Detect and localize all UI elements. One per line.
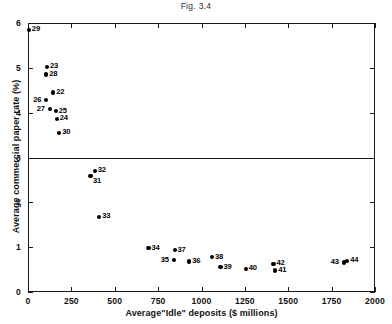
data-point-label: 34: [152, 244, 160, 252]
data-point-label: 29: [32, 25, 40, 33]
data-point-label: 32: [98, 166, 106, 174]
x-axis-tick: [245, 287, 246, 292]
x-axis-tick-top: [245, 23, 246, 28]
data-point-label: 43: [331, 258, 339, 266]
x-axis-tick-label: 2000: [365, 296, 385, 306]
y-axis-tick-label: 2: [0, 197, 21, 207]
x-axis-label: Average"Idle" deposits ($ millions): [28, 308, 375, 318]
x-axis-tick-top: [332, 23, 333, 28]
data-point-label: 40: [249, 264, 257, 272]
x-axis-tick-label: 1000: [192, 296, 212, 306]
x-axis-tick-label: 1500: [278, 296, 298, 306]
data-point: [88, 174, 92, 178]
x-axis-tick-label: 500: [107, 296, 122, 306]
data-point: [271, 262, 275, 266]
data-point: [57, 131, 61, 135]
data-point-label: 41: [278, 266, 286, 274]
data-point: [51, 90, 55, 94]
y-axis-tick: [28, 113, 33, 114]
data-point-label: 31: [93, 177, 101, 185]
data-point: [173, 248, 177, 252]
y-axis-tick-right: [370, 23, 375, 24]
y-axis-tick-right: [370, 68, 375, 69]
data-point: [93, 169, 97, 173]
reference-hline: [28, 158, 375, 159]
data-point-label: 22: [56, 88, 64, 96]
y-axis-tick-label: 0: [0, 287, 21, 297]
y-axis-tick-right: [370, 247, 375, 248]
x-axis-tick-top: [71, 23, 72, 28]
data-point-label: 27: [37, 105, 45, 113]
data-point: [27, 28, 31, 32]
y-axis-tick: [28, 247, 33, 248]
y-axis-tick-label: 1: [0, 242, 21, 252]
data-point-label: 36: [192, 257, 200, 265]
data-point: [244, 267, 248, 271]
x-axis-tick-top: [375, 23, 376, 28]
y-axis-tick-label: 4: [0, 108, 21, 118]
data-point-label: 30: [62, 128, 70, 136]
x-axis-tick-top: [115, 23, 116, 28]
x-axis-tick: [288, 287, 289, 292]
data-point-label: 33: [102, 212, 110, 220]
data-point: [44, 72, 48, 76]
x-axis-tick: [158, 287, 159, 292]
y-axis-tick-right: [370, 158, 375, 159]
data-point-label: 28: [49, 70, 57, 78]
data-point-label: 35: [161, 256, 169, 264]
x-axis-tick-label: 0: [26, 296, 31, 306]
figure-title: Fig. 3.4: [0, 1, 392, 11]
y-axis-tick-label: 3: [0, 153, 21, 163]
data-point: [146, 246, 150, 250]
x-axis-tick-label: 750: [151, 296, 166, 306]
data-point: [48, 107, 52, 111]
x-axis-tick-label: 1750: [322, 296, 342, 306]
figure-root: Fig. 3.4 2923282226272524303231333437353…: [0, 0, 392, 324]
x-axis-tick-label: 1250: [235, 296, 255, 306]
x-axis-tick: [375, 287, 376, 292]
data-point: [187, 259, 191, 263]
data-point: [210, 255, 214, 259]
y-axis-tick: [28, 292, 33, 293]
data-point: [172, 258, 176, 262]
plot-area: 2923282226272524303231333437353638394042…: [28, 23, 375, 292]
data-point: [54, 109, 58, 113]
data-point: [44, 98, 48, 102]
y-axis-tick-label: 6: [0, 18, 21, 28]
data-point-label: 26: [33, 96, 41, 104]
x-axis-tick: [332, 287, 333, 292]
data-point: [273, 268, 277, 272]
y-axis-tick-right: [370, 202, 375, 203]
y-axis-tick: [28, 68, 33, 69]
x-axis-tick-top: [288, 23, 289, 28]
data-point: [345, 259, 349, 263]
y-axis-tick-right: [370, 113, 375, 114]
data-point-label: 37: [178, 246, 186, 254]
x-axis-tick-top: [158, 23, 159, 28]
y-axis-tick: [28, 202, 33, 203]
data-point: [97, 215, 101, 219]
data-point-label: 38: [215, 253, 223, 261]
data-point-label: 44: [350, 256, 358, 264]
x-axis-tick: [71, 287, 72, 292]
y-axis-tick-label: 5: [0, 63, 21, 73]
y-axis-tick-right: [370, 292, 375, 293]
data-point: [218, 265, 222, 269]
y-axis-tick: [28, 158, 33, 159]
x-axis-tick-label: 250: [64, 296, 79, 306]
x-axis-tick: [202, 287, 203, 292]
data-point-label: 24: [60, 114, 68, 122]
x-axis-tick-top: [202, 23, 203, 28]
data-point-label: 39: [224, 263, 232, 271]
data-point: [55, 117, 59, 121]
x-axis-tick: [115, 287, 116, 292]
